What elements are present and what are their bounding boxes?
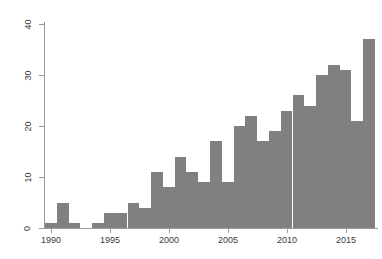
- y-tick-label-wrap: 0: [20, 222, 36, 234]
- bar-chart: 010203040 199019952000200520102015: [0, 0, 382, 259]
- bar: [92, 223, 104, 228]
- y-tick-mark: [39, 177, 44, 178]
- bar: [269, 131, 281, 228]
- y-tick-label-wrap: 10: [20, 171, 36, 183]
- bar: [116, 213, 128, 228]
- bar: [316, 75, 328, 228]
- x-tick-label: 1990: [41, 236, 61, 245]
- bar: [234, 126, 246, 228]
- bar: [328, 65, 340, 228]
- bar: [293, 95, 305, 228]
- x-tick-label: 2005: [218, 236, 238, 245]
- x-tick-mark: [346, 229, 347, 233]
- bar: [222, 182, 234, 228]
- bars-layer: [45, 24, 375, 228]
- y-tick-label: 40: [23, 19, 32, 29]
- x-tick-mark: [287, 229, 288, 233]
- x-axis-line: [44, 228, 378, 229]
- y-tick-mark: [39, 228, 44, 229]
- x-tick-mark: [228, 229, 229, 233]
- bar: [139, 208, 151, 228]
- bar: [198, 182, 210, 228]
- bar: [104, 213, 116, 228]
- bar: [245, 116, 257, 228]
- bar: [45, 223, 57, 228]
- x-tick-mark: [51, 229, 52, 233]
- plot-area: [45, 24, 375, 228]
- bar: [128, 203, 140, 229]
- y-tick-label-wrap: 30: [20, 69, 36, 81]
- y-tick-mark: [39, 126, 44, 127]
- x-tick-label: 1995: [100, 236, 120, 245]
- bar: [69, 223, 81, 228]
- x-tick-label: 2000: [159, 236, 179, 245]
- x-tick-label: 2010: [277, 236, 297, 245]
- bar: [186, 172, 198, 228]
- y-tick-label: 10: [23, 172, 32, 182]
- bar: [210, 141, 222, 228]
- x-tick-label: 2015: [336, 236, 356, 245]
- y-tick-label: 20: [23, 121, 32, 131]
- bar: [281, 111, 293, 228]
- y-tick-label-wrap: 20: [20, 120, 36, 132]
- bar: [151, 172, 163, 228]
- y-tick-mark: [39, 24, 44, 25]
- bar: [340, 70, 352, 228]
- x-tick-mark: [110, 229, 111, 233]
- bar: [363, 39, 375, 228]
- y-tick-label: 30: [23, 70, 32, 80]
- bar: [304, 106, 316, 228]
- bar: [351, 121, 363, 228]
- y-tick-label-wrap: 40: [20, 18, 36, 30]
- y-tick-mark: [39, 75, 44, 76]
- bar: [175, 157, 187, 228]
- bar: [163, 187, 175, 228]
- x-tick-mark: [169, 229, 170, 233]
- y-tick-label: 0: [23, 225, 32, 230]
- bar: [257, 141, 269, 228]
- bar: [57, 203, 69, 229]
